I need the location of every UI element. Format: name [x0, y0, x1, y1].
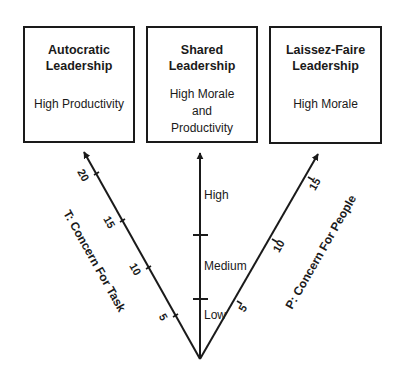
task-tick-label: 5	[157, 311, 170, 322]
people-axis-label: P: Concern For People	[282, 192, 359, 311]
task-axis-arrow-icon	[84, 152, 200, 359]
task-tick-label: 10	[127, 261, 143, 278]
axes-diagram: 5 10 15 20 T: Concern For Task Low Mediu…	[0, 0, 402, 391]
task-tick-label: 20	[75, 167, 91, 184]
task-axis-label: T: Concern For Task	[60, 208, 128, 315]
shared-axis: Low Medium High	[193, 153, 247, 359]
level-high: High	[204, 188, 229, 202]
people-axis: 5 10 15 P: Concern For People	[200, 154, 359, 359]
people-axis-arrow-icon	[200, 154, 318, 359]
task-tick-label: 15	[101, 214, 117, 231]
task-axis: 5 10 15 20 T: Concern For Task	[60, 152, 200, 359]
level-medium: Medium	[204, 259, 247, 273]
people-tick-label: 5	[236, 302, 249, 313]
